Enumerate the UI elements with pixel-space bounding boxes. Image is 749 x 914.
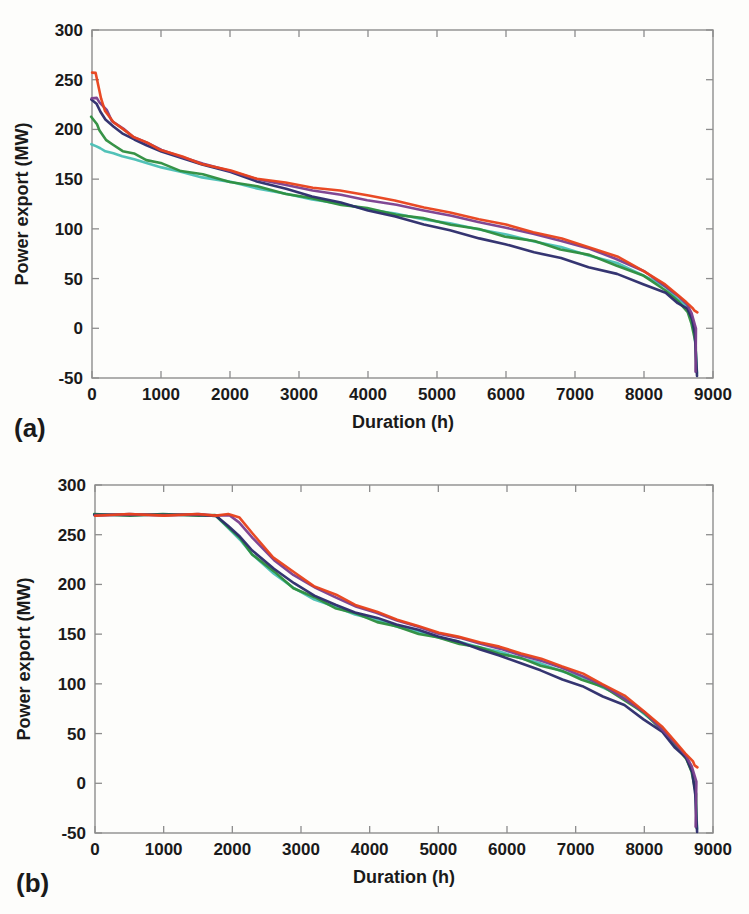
x-tick-label: 3000 — [280, 385, 318, 404]
y-tick-label: 200 — [58, 575, 86, 594]
x-tick-labels-b: 0100020003000400050006000700080009000 — [90, 840, 732, 859]
figure-container: 0100020003000400050006000700080009000 30… — [0, 0, 749, 914]
y-tick-label: 100 — [58, 675, 86, 694]
x-tick-label: 0 — [90, 840, 99, 859]
x-tick-label: 8000 — [625, 840, 663, 859]
y-tick-label: 300 — [58, 476, 86, 495]
series-line-navy — [91, 99, 697, 375]
series-line-purple — [92, 98, 696, 372]
x-tick-label: 8000 — [625, 385, 663, 404]
series-line-red — [92, 73, 697, 313]
chart-panel-b: 0100020003000400050006000700080009000 30… — [0, 457, 749, 914]
y-tick-label: 50 — [67, 725, 86, 744]
y-axis-title-a: Power export (MW) — [12, 122, 32, 285]
x-tick-label: 7000 — [557, 840, 595, 859]
series-group-a — [91, 73, 697, 376]
y-tick-label: 200 — [55, 120, 83, 139]
plot-frame-b — [95, 485, 713, 833]
series-line-green — [91, 117, 696, 372]
y-tick-labels-b: 300250200150100500-50 — [58, 476, 86, 843]
axis-ticks-b — [95, 485, 713, 833]
panel-label-a: (a) — [14, 413, 46, 443]
y-axis-title-b: Power export (MW) — [14, 577, 34, 740]
y-tick-label: 50 — [64, 270, 83, 289]
y-tick-label: 300 — [55, 21, 83, 40]
y-tick-label: 150 — [58, 625, 86, 644]
y-tick-labels-a: 300250200150100500-50 — [55, 21, 83, 388]
y-tick-label: 100 — [55, 220, 83, 239]
x-tick-label: 6000 — [488, 840, 526, 859]
x-tick-label: 4000 — [351, 840, 389, 859]
x-tick-label: 1000 — [145, 840, 183, 859]
x-tick-label: 2000 — [213, 840, 251, 859]
x-tick-label: 9000 — [694, 385, 732, 404]
series-line-navy — [94, 515, 697, 832]
x-axis-title-b: Duration (h) — [353, 867, 455, 887]
x-tick-label: 5000 — [419, 840, 457, 859]
y-tick-label: 0 — [77, 774, 86, 793]
axis-ticks-a — [92, 30, 713, 378]
y-tick-label: -50 — [61, 824, 86, 843]
plot-svg-a: 0100020003000400050006000700080009000 30… — [0, 0, 749, 457]
x-tick-label: 5000 — [418, 385, 456, 404]
x-tick-label: 4000 — [349, 385, 387, 404]
x-tick-label: 2000 — [211, 385, 249, 404]
x-axis-title-a: Duration (h) — [352, 412, 454, 432]
y-tick-label: 150 — [55, 170, 83, 189]
series-line-red — [95, 514, 697, 767]
series-line-cyan — [94, 515, 697, 829]
x-tick-label: 0 — [87, 385, 96, 404]
series-line-purple — [95, 514, 697, 827]
panel-label-b: (b) — [16, 868, 49, 898]
x-tick-label: 7000 — [556, 385, 594, 404]
plot-svg-b: 0100020003000400050006000700080009000 30… — [0, 457, 749, 914]
y-tick-label: 250 — [55, 71, 83, 90]
y-tick-label: 250 — [58, 526, 86, 545]
x-tick-label: 9000 — [694, 840, 732, 859]
x-tick-labels-a: 0100020003000400050006000700080009000 — [87, 385, 732, 404]
series-line-cyan — [91, 144, 697, 373]
plot-frame-a — [92, 30, 713, 378]
series-group-b — [94, 514, 697, 832]
y-tick-label: 0 — [74, 319, 83, 338]
x-tick-label: 3000 — [282, 840, 320, 859]
x-tick-label: 1000 — [142, 385, 180, 404]
x-tick-label: 6000 — [487, 385, 525, 404]
chart-panel-a: 0100020003000400050006000700080009000 30… — [0, 0, 749, 457]
y-tick-label: -50 — [58, 369, 83, 388]
series-line-green — [94, 514, 696, 827]
